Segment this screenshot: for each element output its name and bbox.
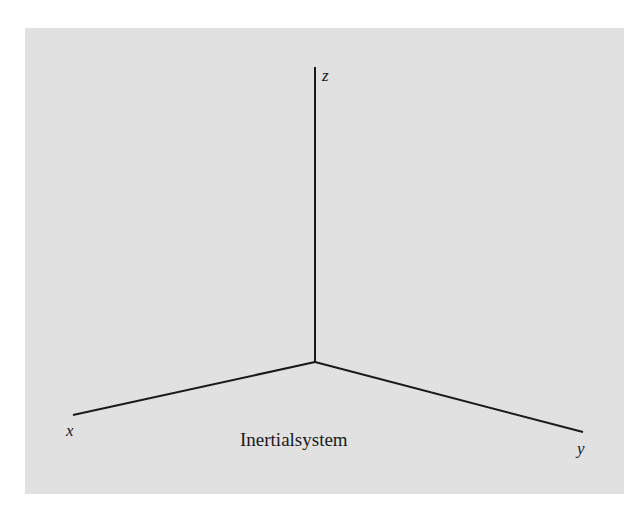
x-axis-label: x [66,422,74,439]
diagram-caption: Inertialsystem [240,430,348,449]
y-axis-label: y [577,440,585,457]
y-axis-line [315,362,583,432]
z-axis-label: z [322,67,329,84]
x-axis-line [73,362,315,415]
